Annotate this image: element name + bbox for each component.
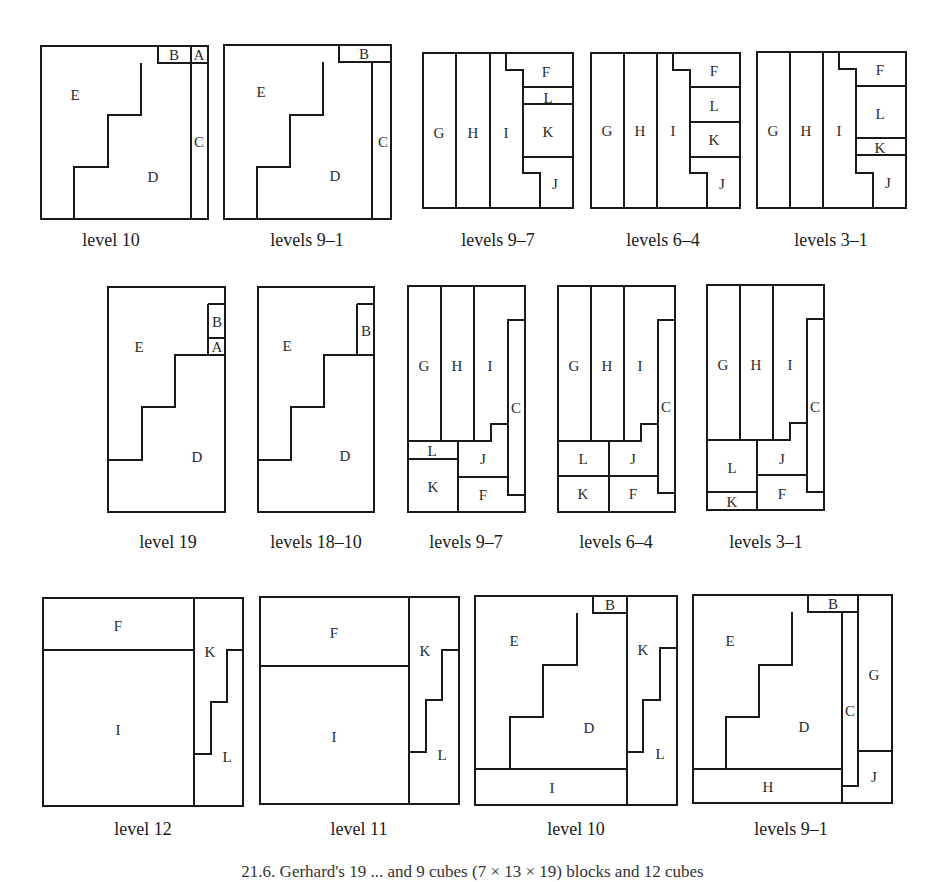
piece-boundary [726,612,792,769]
piece-boundary [839,52,873,208]
piece-label: J [552,176,558,192]
piece-label: K [727,494,738,510]
piece-label: L [727,460,736,476]
piece-label: I [837,123,842,139]
piece-label: I [504,125,509,141]
level-diagram: EBDlevels 18–10 [258,287,374,552]
piece-label: C [378,134,388,150]
piece-boundary [408,424,508,441]
piece-label: C [194,134,204,150]
figure-row-3: FKILlevel 12FKILlevel 11EBKDLIlevel 10EB… [43,595,892,839]
piece-label: L [709,98,718,114]
piece-label: J [719,176,725,192]
piece-label: I [488,358,493,374]
level-diagram: FKILlevel 12 [43,598,243,839]
level-diagram: EBGCDJHlevels 9–1 [693,595,892,839]
piece-label: E [509,633,518,649]
level-diagram: EBKDLIlevel 10 [475,596,677,839]
figure-row-2: EBADlevel 19EBDlevels 18–10GHICLJKFlevel… [108,285,824,552]
piece-label: D [192,449,203,465]
piece-label: J [630,451,636,467]
level-diagram: GHIFLKJlevels 3–1 [757,52,906,250]
level-caption: level 11 [331,819,388,839]
piece-boundary [74,63,141,219]
level-diagram: GHICLJKFlevels 9–7 [408,286,525,552]
piece-label: A [212,339,223,355]
level-caption: levels 3–1 [729,532,803,552]
piece-label: B [359,46,369,62]
piece-label: F [778,486,786,502]
piece-boundary [842,612,858,786]
piece-label: D [330,168,341,184]
piece-label: L [875,106,884,122]
level-diagram: GHICLJKFlevels 3–1 [707,285,824,552]
piece-boundary [506,53,540,208]
piece-boundary [108,355,225,460]
piece-label: G [419,358,430,374]
piece-label: D [799,719,810,735]
piece-label: E [134,339,143,355]
level-diagram: GHIFLKJlevels 6–4 [591,53,740,250]
level-diagram: EBACDlevel 10 [41,46,208,250]
piece-label: F [542,64,550,80]
piece-label: I [550,780,555,796]
piece-boundary [510,613,577,769]
piece-label: B [605,597,615,613]
piece-label: F [479,487,487,503]
piece-label: F [876,62,884,78]
piece-label: I [332,729,337,745]
level-caption: levels 18–10 [270,532,362,552]
piece-boundary [194,650,243,754]
piece-boundary [409,650,459,752]
piece-label: G [869,667,880,683]
piece-label: K [709,132,720,148]
piece-label: L [427,443,436,459]
piece-label: J [480,451,486,467]
piece-label: G [434,125,445,141]
level-caption: levels 9–7 [461,230,535,250]
piece-label: G [718,357,729,373]
piece-label: D [584,720,595,736]
level-diagram: GHIFLKJlevels 9–7 [423,53,573,250]
piece-label: L [578,451,587,467]
outer-box [224,45,391,219]
piece-label: H [763,779,774,795]
piece-label: A [194,47,205,63]
piece-boundary [558,424,658,441]
piece-label: L [655,746,664,762]
piece-label: K [205,644,216,660]
piece-label: L [437,747,446,763]
piece-label: H [801,123,812,139]
piece-label: H [751,357,762,373]
piece-label: B [212,314,222,330]
piece-label: I [116,722,121,738]
piece-boundary [627,648,677,752]
piece-label: H [635,123,646,139]
outer-box [41,46,208,219]
piece-label: K [420,643,431,659]
figure-row-1: EBACDlevel 10EBCDlevels 9–1GHIFLKJlevels… [41,45,906,250]
piece-boundary [257,62,323,219]
piece-label: B [361,323,371,339]
piece-label: G [569,358,580,374]
piece-label: G [602,123,613,139]
level-caption: levels 6–4 [579,532,653,552]
level-diagram: FKILlevel 11 [260,597,459,839]
piece-label: D [340,448,351,464]
level-caption: levels 3–1 [794,230,868,250]
piece-boundary [258,355,374,460]
level-caption: level 19 [139,532,196,552]
piece-label: B [169,47,179,63]
piece-label: B [828,596,838,612]
piece-label: K [543,124,554,140]
piece-label: C [661,399,671,415]
level-diagram: EBADlevel 19 [108,287,225,552]
level-caption: level 12 [114,819,171,839]
level-diagram: EBCDlevels 9–1 [224,45,391,250]
piece-label: F [114,618,122,634]
piece-label: C [810,399,820,415]
piece-label: I [788,357,793,373]
piece-boundary [707,423,807,440]
piece-label: C [511,400,521,416]
piece-label: F [629,486,637,502]
